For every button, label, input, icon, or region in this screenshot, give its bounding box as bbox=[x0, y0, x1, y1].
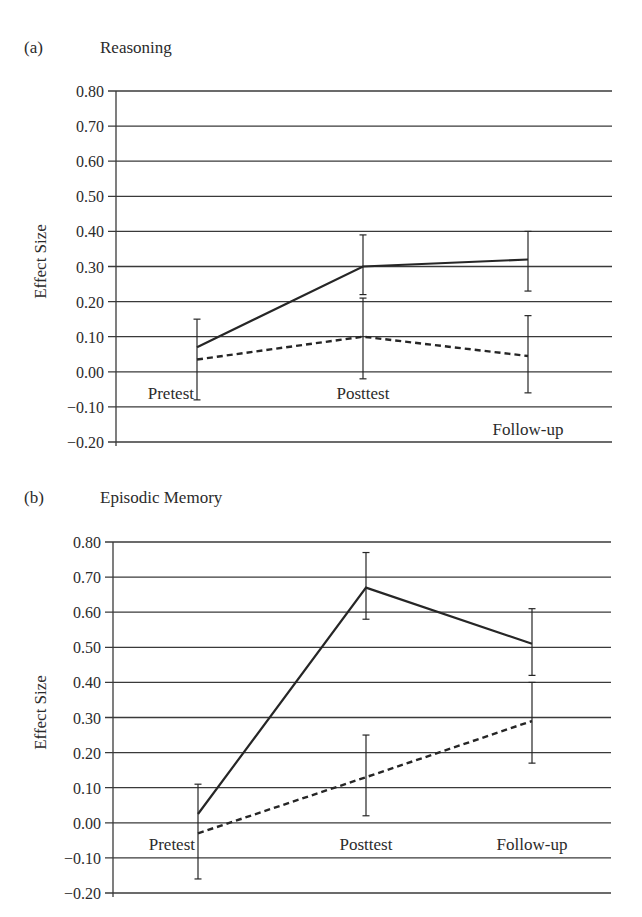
chart-panel-episodic-memory: 0.800.700.600.500.400.300.200.100.00−0.1… bbox=[0, 460, 642, 917]
chart-title: Episodic Memory bbox=[100, 488, 222, 508]
x-category-labels: PretestPosttestFollow-up bbox=[148, 384, 564, 439]
x-category-label: Pretest bbox=[149, 835, 196, 854]
y-tick-label: 0.30 bbox=[76, 259, 104, 276]
y-axis-ticks: 0.800.700.600.500.400.300.200.100.00−0.1… bbox=[67, 83, 104, 451]
y-tick-label: 0.50 bbox=[73, 639, 101, 656]
chart-title: Reasoning bbox=[100, 38, 172, 58]
y-tick-label: −0.20 bbox=[64, 885, 101, 902]
chart-reasoning: 0.800.700.600.500.400.300.200.100.00−0.1… bbox=[0, 0, 642, 460]
y-tick-label: 0.70 bbox=[73, 569, 101, 586]
panel-letter: (a) bbox=[24, 38, 43, 58]
y-tick-label: 0.40 bbox=[76, 223, 104, 240]
y-tick-label: 0.80 bbox=[73, 534, 101, 551]
series-solid bbox=[195, 553, 536, 879]
x-category-label: Pretest bbox=[148, 384, 195, 403]
y-tick-label: −0.10 bbox=[67, 399, 104, 416]
y-axis-label: Effect Size bbox=[31, 675, 50, 750]
y-tick-label: −0.20 bbox=[67, 434, 104, 451]
y-tick-label: 0.00 bbox=[73, 815, 101, 832]
y-tick-label: 0.10 bbox=[76, 329, 104, 346]
y-axis-label: Effect Size bbox=[31, 224, 50, 299]
x-category-label: Posttest bbox=[337, 384, 390, 403]
panel-letter: (b) bbox=[24, 488, 44, 508]
x-category-label: Follow-up bbox=[497, 835, 568, 854]
y-tick-label: 0.70 bbox=[76, 118, 104, 135]
y-tick-label: 0.30 bbox=[73, 710, 101, 727]
y-tick-label: 0.80 bbox=[76, 83, 104, 100]
solid-line bbox=[198, 588, 532, 814]
y-tick-label: 0.00 bbox=[76, 364, 104, 381]
y-tick-label: 0.10 bbox=[73, 780, 101, 797]
x-category-labels: PretestPosttestFollow-up bbox=[149, 835, 568, 854]
y-tick-label: 0.50 bbox=[76, 188, 104, 205]
chart-episodic-memory: 0.800.700.600.500.400.300.200.100.00−0.1… bbox=[0, 460, 642, 917]
x-category-label: Follow-up bbox=[493, 420, 564, 439]
y-tick-label: 0.20 bbox=[73, 745, 101, 762]
y-tick-label: −0.10 bbox=[64, 850, 101, 867]
x-category-label: Posttest bbox=[340, 835, 393, 854]
series-dashed bbox=[197, 298, 532, 393]
y-tick-label: 0.60 bbox=[73, 604, 101, 621]
y-axis-ticks: 0.800.700.600.500.400.300.200.100.00−0.1… bbox=[64, 534, 101, 902]
y-tick-label: 0.60 bbox=[76, 153, 104, 170]
y-tick-label: 0.20 bbox=[76, 294, 104, 311]
chart-panel-reasoning: 0.800.700.600.500.400.300.200.100.00−0.1… bbox=[0, 0, 642, 460]
y-tick-label: 0.40 bbox=[73, 674, 101, 691]
series-dashed bbox=[198, 682, 536, 833]
dashed-line bbox=[198, 721, 532, 833]
